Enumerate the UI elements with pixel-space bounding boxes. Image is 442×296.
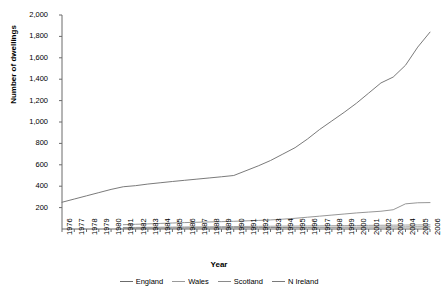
x-tick-label: 1992 (261, 218, 270, 235)
legend-line-icon (172, 281, 185, 282)
x-tick-label: 1990 (237, 218, 246, 235)
legend-label: Wales (188, 277, 209, 286)
legend-line-icon (120, 281, 133, 282)
x-tick-label: 1985 (175, 218, 184, 235)
x-tick-label: 1995 (298, 218, 307, 235)
x-tick-label: 2005 (421, 218, 430, 235)
x-tick-label: 1993 (274, 218, 283, 235)
x-tick-label: 1980 (114, 218, 123, 235)
x-tick-label: 1981 (126, 218, 135, 235)
x-tick-label: 1997 (323, 218, 332, 235)
x-tick-label: 1986 (188, 218, 197, 235)
legend-line-icon (218, 281, 231, 282)
x-tick-label: 2000 (359, 218, 368, 235)
x-tick-label: 2006 (433, 218, 442, 235)
legend-label: England (136, 277, 164, 286)
x-tick-label: 1983 (151, 218, 160, 235)
x-tick-label: 1994 (286, 218, 295, 235)
x-tick-label: 1988 (212, 218, 221, 235)
x-tick-label: 1991 (249, 218, 258, 235)
legend-item-scotland[interactable]: Scotland (218, 277, 263, 286)
x-tick-label: 1976 (65, 218, 74, 235)
x-tick-label: 1977 (77, 218, 86, 235)
x-tick-label: 2004 (408, 218, 417, 235)
legend-line-icon (272, 281, 285, 282)
x-tick-label: 1984 (163, 218, 172, 235)
x-tick-label: 1978 (90, 218, 99, 235)
legend-item-n-ireland[interactable]: N Ireland (272, 277, 318, 286)
x-tick-label: 1982 (139, 218, 148, 235)
x-tick-label: 2002 (384, 218, 393, 235)
x-tick-label: 1979 (102, 218, 111, 235)
x-tick-label: 1996 (310, 218, 319, 235)
legend-item-wales[interactable]: Wales (172, 277, 209, 286)
x-tick-label: 1998 (335, 218, 344, 235)
legend-item-england[interactable]: England (120, 277, 164, 286)
x-tick-label: 1989 (224, 218, 233, 235)
x-tick-label: 1999 (347, 218, 356, 235)
x-axis-title: Year (0, 260, 438, 269)
x-tick-label: 2001 (372, 218, 381, 235)
x-tick-label: 1987 (200, 218, 209, 235)
chart-legend: EnglandWalesScotlandN Ireland (0, 277, 438, 286)
x-tick-label: 2003 (396, 218, 405, 235)
legend-label: Scotland (234, 277, 263, 286)
legend-label: N Ireland (288, 277, 318, 286)
